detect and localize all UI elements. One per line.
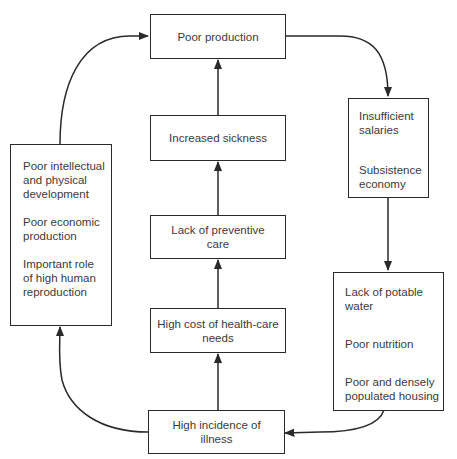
item-line: Insufficient [359,109,428,123]
node-label: Poor production [177,30,258,44]
node-label: Increased sickness [169,131,267,145]
economic-item: Insufficient salaries [359,109,428,137]
development-item: Important role of high human reproductio… [23,257,111,299]
item-line: development [23,187,111,201]
node-label-line-2: care [207,237,229,251]
living-item: Lack of potable water [345,285,443,313]
living-item: Poor nutrition [345,337,443,351]
node-economic-factors: Insufficient salaries Subsistence econom… [348,98,429,198]
node-label-line-1: Lack of preventive [171,223,264,237]
arrow-illness-to-development [60,327,149,432]
item-line: populated housing [345,389,443,403]
node-lack-preventive-care: Lack of preventive care [150,215,286,259]
node-high-incidence-illness: High incidence of illness [148,410,285,454]
item-line: of high human [23,271,111,285]
item-line: salaries [359,123,428,137]
item-line: Important role [23,257,111,271]
item-line: Lack of potable [345,285,443,299]
node-label-line-2: needs [202,331,233,345]
development-item: Poor economic production [23,215,111,243]
arrow-living-to-illness [285,410,384,433]
item-line: Poor nutrition [345,337,443,351]
development-item: Poor intellectual and physical developme… [23,159,111,201]
arrow-production-to-economic [285,36,388,96]
item-line: Poor and densely [345,375,443,389]
diagram-canvas: Poor production Increased sickness Lack … [0,0,457,459]
node-label-line-1: High cost of health-care [157,317,278,331]
item-line: Poor intellectual [23,159,111,173]
economic-item: Subsistence economy [359,163,428,191]
node-poor-production: Poor production [150,14,286,59]
living-item: Poor and densely populated housing [345,375,443,403]
node-label-line-1: High incidence of [172,418,260,432]
item-line: Poor economic [23,215,111,229]
node-high-cost-health-care: High cost of health-care needs [150,308,286,353]
item-line: water [345,299,443,313]
item-line: Subsistence [359,163,428,177]
node-development-factors: Poor intellectual and physical developme… [10,144,112,326]
arrow-development-to-production [60,36,148,144]
item-line: production [23,229,111,243]
node-label-line-2: illness [201,432,233,446]
item-line: reproduction [23,285,111,299]
node-living-conditions: Lack of potable water Poor nutrition Poo… [333,272,444,411]
item-line: economy [359,177,428,191]
node-increased-sickness: Increased sickness [150,115,286,161]
item-line: and physical [23,173,111,187]
